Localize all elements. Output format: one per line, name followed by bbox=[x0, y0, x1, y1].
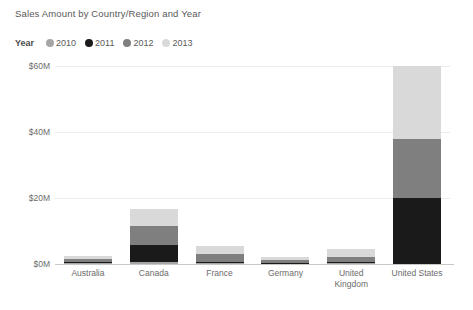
x-axis: AustraliaCanadaFranceGermanyUnited Kingd… bbox=[55, 268, 450, 308]
legend-label-2013: 2013 bbox=[172, 38, 192, 48]
x-axis-tick-label: France bbox=[187, 268, 253, 279]
bar-segment-2013[interactable] bbox=[393, 66, 441, 139]
bar-stack bbox=[64, 256, 112, 264]
bar-column[interactable] bbox=[196, 66, 244, 264]
legend-label-2010: 2010 bbox=[56, 38, 76, 48]
bar-stack bbox=[261, 257, 309, 264]
legend-swatch-2013 bbox=[162, 39, 170, 47]
y-axis-tick-label: $20M bbox=[29, 193, 50, 203]
bar-stack bbox=[393, 66, 441, 264]
x-axis-tick-label: Australia bbox=[55, 268, 121, 279]
x-axis-tick-label: Canada bbox=[121, 268, 187, 279]
legend-item-2012[interactable]: 2012 bbox=[123, 38, 153, 48]
bar-segment-2012[interactable] bbox=[130, 226, 178, 244]
bar-segment-2012[interactable] bbox=[196, 254, 244, 262]
gridline-$20M bbox=[55, 198, 450, 199]
y-axis: $0M$20M$40M$60M bbox=[0, 0, 50, 310]
x-axis-tick-label: United States bbox=[384, 268, 450, 279]
plot-area bbox=[55, 66, 450, 264]
y-axis-tick-label: $60M bbox=[29, 61, 50, 71]
legend-label-2012: 2012 bbox=[133, 38, 153, 48]
y-axis-tick-label: $40M bbox=[29, 127, 50, 137]
bar-stack bbox=[196, 246, 244, 264]
bar-column[interactable] bbox=[261, 66, 309, 264]
legend-swatch-2012 bbox=[123, 39, 131, 47]
bar-segment-2013[interactable] bbox=[327, 249, 375, 257]
bar-column[interactable] bbox=[327, 66, 375, 264]
y-axis-tick-label: $0M bbox=[33, 259, 50, 269]
bar-segment-2011[interactable] bbox=[393, 198, 441, 264]
x-axis-tick-label: Germany bbox=[253, 268, 319, 279]
bar-segment-2012[interactable] bbox=[393, 139, 441, 198]
x-axis-line bbox=[55, 264, 454, 265]
legend-item-2010[interactable]: 2010 bbox=[46, 38, 76, 48]
bar-column[interactable] bbox=[64, 66, 112, 264]
bar-segment-2013[interactable] bbox=[196, 246, 244, 255]
bar-stack bbox=[327, 249, 375, 264]
bar-column[interactable] bbox=[393, 66, 441, 264]
bar-stack bbox=[130, 209, 178, 264]
bar-segment-2013[interactable] bbox=[130, 209, 178, 226]
legend-item-2011[interactable]: 2011 bbox=[85, 38, 114, 48]
legend-item-2013[interactable]: 2013 bbox=[162, 38, 192, 48]
legend-label-2011: 2011 bbox=[95, 38, 114, 48]
x-axis-tick-label: United Kingdom bbox=[318, 268, 384, 290]
bar-column[interactable] bbox=[130, 66, 178, 264]
gridline-$40M bbox=[55, 132, 450, 133]
sales-amount-chart: Sales Amount by Country/Region and Year … bbox=[0, 0, 473, 310]
legend-swatch-2011 bbox=[85, 39, 93, 47]
gridline-$60M bbox=[55, 66, 450, 67]
bar-segment-2011[interactable] bbox=[130, 245, 178, 262]
